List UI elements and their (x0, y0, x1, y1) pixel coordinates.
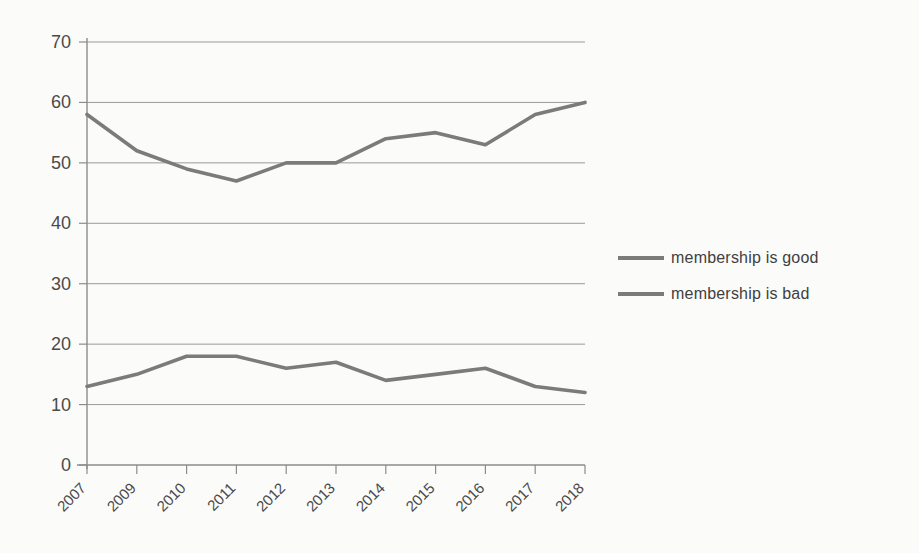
chart-page: 010203040506070 200720092010201120122013… (0, 0, 919, 553)
y-axis-tick-label: 40 (51, 213, 71, 233)
x-axis-tick-label: 2016 (452, 479, 488, 515)
y-axis-ticks (79, 42, 87, 465)
y-axis-tick-label: 60 (51, 92, 71, 112)
x-axis-ticks (87, 465, 585, 474)
x-axis-tick-label: 2007 (54, 479, 90, 515)
x-axis-tick-label: 2017 (502, 479, 538, 515)
data-series-lines (87, 102, 585, 392)
y-axis-tick-labels: 010203040506070 (51, 32, 71, 475)
x-axis-tick-label: 2014 (352, 479, 388, 515)
x-axis-tick-label: 2015 (402, 479, 438, 515)
y-axis-tick-label: 10 (51, 395, 71, 415)
legend-label-bad: membership is bad (671, 285, 810, 303)
series-line-1 (87, 356, 585, 392)
legend-label-good: membership is good (671, 249, 819, 267)
x-axis-tick-label: 2010 (153, 479, 189, 515)
x-axis-tick-label: 2011 (204, 479, 239, 514)
legend-swatch-good (618, 256, 664, 260)
legend-swatch-bad (618, 292, 664, 296)
y-axis-tick-label: 70 (51, 32, 71, 52)
chart-canvas: 010203040506070 200720092010201120122013… (0, 0, 600, 553)
legend-item-membership-is-good: membership is good (618, 240, 908, 276)
y-axis-tick-label: 30 (51, 274, 71, 294)
legend-item-membership-is-bad: membership is bad (618, 276, 908, 312)
chart-legend: membership is good membership is bad (618, 240, 908, 312)
x-axis-tick-label: 2013 (303, 479, 339, 515)
x-axis-tick-labels: 2007200920102011201220132014201520162017… (54, 479, 588, 515)
x-axis-tick-label: 2018 (552, 479, 588, 515)
y-axis-tick-label: 0 (61, 455, 71, 475)
line-chart: 010203040506070 200720092010201120122013… (0, 0, 600, 553)
y-axis-tick-label: 50 (51, 153, 71, 173)
y-axis-tick-label: 20 (51, 334, 71, 354)
x-axis-tick-label: 2009 (103, 479, 139, 515)
x-axis-tick-label: 2012 (253, 479, 289, 515)
series-line-0 (87, 102, 585, 181)
gridlines (87, 42, 585, 405)
